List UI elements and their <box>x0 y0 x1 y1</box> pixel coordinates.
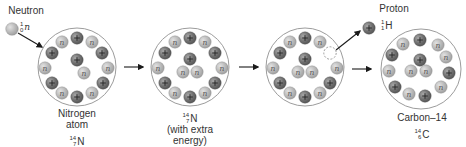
proton-label: Proton <box>372 3 416 14</box>
incoming-neutron <box>6 23 19 36</box>
atom-excited-nitrogen <box>151 28 229 106</box>
proton-symbol: H <box>385 20 392 31</box>
neutron-label-text: Neutron <box>2 5 50 16</box>
nitrogen-symbol: N <box>77 136 84 147</box>
nitrogen-label-line1: Nitrogen <box>47 108 107 119</box>
excited-symbol: N <box>190 113 197 124</box>
neutron-particle-icon <box>6 23 19 36</box>
excited-nitrogen-label: 147 N (with extra energy) <box>158 108 222 146</box>
nitrogen-label: Nitrogen atom 147 N <box>47 108 107 147</box>
arrow-proton-out <box>336 31 360 50</box>
neutron-label: Neutron <box>2 5 50 16</box>
proton-atomic-number: 1 <box>381 25 384 31</box>
outgoing-proton <box>363 22 375 34</box>
neutron-symbol: n <box>24 22 30 33</box>
carbon-symbol: C <box>422 129 429 140</box>
arrow-neutron-in <box>18 33 42 47</box>
proton-label-text: Proton <box>372 3 416 14</box>
nitrogen-atomic-number: 7 <box>70 141 77 147</box>
nitrogen-label-line2: atom <box>47 119 107 130</box>
atom-carbon-14 <box>381 29 461 109</box>
excited-label-line1: (with extra <box>158 124 222 135</box>
excited-label-line2: energy) <box>158 135 222 146</box>
atom-proton-ejection <box>266 28 344 106</box>
neutron-isotope: 10 n <box>20 17 30 33</box>
atom-nitrogen <box>38 28 116 106</box>
carbon-label: Carbon–14 146 C <box>390 112 454 140</box>
carbon-atomic-number: 6 <box>415 134 422 140</box>
proton-isotope: 11 H <box>381 15 393 31</box>
neutron-atomic-number: 0 <box>20 27 23 33</box>
carbon-label-text: Carbon–14 <box>390 112 454 123</box>
